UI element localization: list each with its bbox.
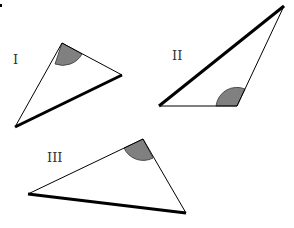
triangle-i: I	[13, 43, 122, 127]
angle-marker-iii	[124, 139, 153, 160]
side-thin	[143, 139, 186, 213]
angle-marker-ii	[216, 87, 245, 106]
side-thin	[237, 6, 284, 106]
side-bold	[28, 194, 186, 213]
corner-mark	[0, 4, 2, 7]
side-thin	[28, 139, 143, 194]
triangle-iii: III	[28, 139, 186, 213]
label-ii: II	[172, 48, 182, 63]
label-iii: III	[47, 150, 62, 165]
triangles-diagram: I II III	[0, 0, 294, 228]
label-i: I	[13, 52, 18, 67]
side-bold	[15, 75, 122, 127]
triangle-ii: II	[159, 6, 284, 106]
